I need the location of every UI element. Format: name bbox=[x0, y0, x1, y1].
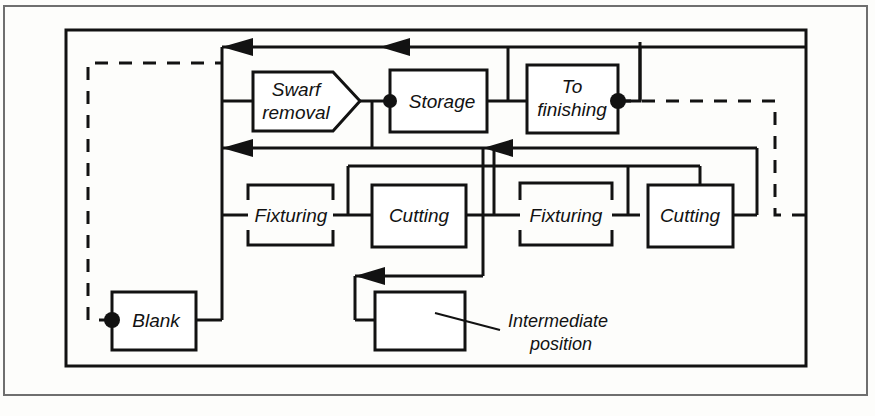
to-finishing-label-line1: To bbox=[562, 76, 582, 97]
node-cutting-1[interactable]: Cutting bbox=[372, 185, 466, 247]
intermediate-shape bbox=[375, 292, 465, 350]
node-blank[interactable]: Blank bbox=[112, 292, 196, 350]
junction-dot-to-finishing bbox=[610, 93, 626, 109]
junction-dot-storage bbox=[383, 94, 397, 108]
to-finishing-label-line2: finishing bbox=[537, 99, 607, 120]
callout-line2: position bbox=[529, 334, 592, 354]
fixturing1-label: Fixturing bbox=[255, 205, 328, 226]
node-intermediate-position[interactable] bbox=[375, 292, 465, 350]
process-flow-diagram: Swarf removal Storage To finishing Fixtu… bbox=[0, 0, 875, 416]
node-cutting-2[interactable]: Cutting bbox=[648, 185, 733, 247]
fixturing2-label: Fixturing bbox=[530, 205, 603, 226]
storage-label: Storage bbox=[409, 91, 476, 112]
cutting2-label: Cutting bbox=[660, 205, 721, 226]
figure-page: Swarf removal Storage To finishing Fixtu… bbox=[0, 0, 875, 416]
swarf-removal-label-line2: removal bbox=[262, 102, 330, 123]
callout-line1: Intermediate bbox=[508, 311, 608, 331]
junction-dot-blank bbox=[104, 312, 120, 328]
swarf-removal-label-line1: Swarf bbox=[272, 79, 322, 100]
blank-label: Blank bbox=[132, 310, 181, 331]
cutting1-label: Cutting bbox=[389, 205, 450, 226]
node-to-finishing[interactable]: To finishing bbox=[527, 65, 618, 133]
node-storage[interactable]: Storage bbox=[390, 70, 487, 132]
